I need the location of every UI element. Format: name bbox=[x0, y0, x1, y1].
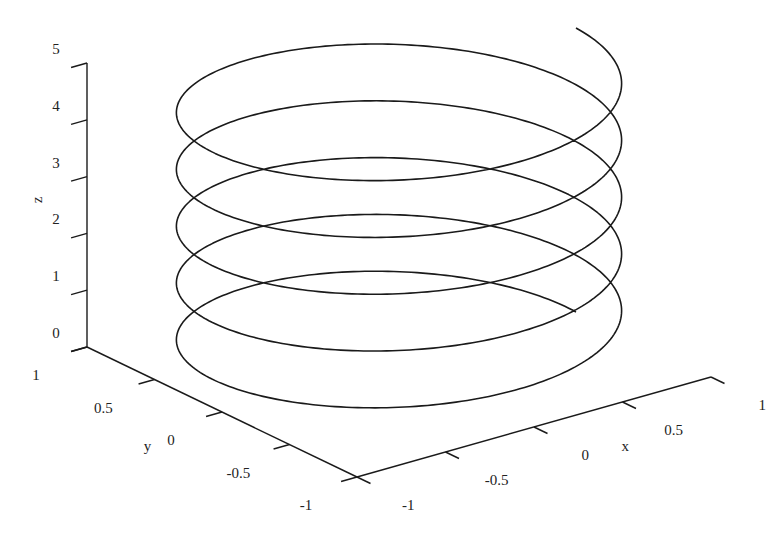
y-tick-label: 0 bbox=[167, 432, 175, 448]
axis-ticks bbox=[71, 63, 724, 484]
y-tick bbox=[139, 380, 155, 385]
x-tick-label: 0 bbox=[581, 447, 589, 463]
helix-3d-plot: -1-0.500.51-1-0.500.51012345 x y z bbox=[0, 0, 779, 533]
z-tick-label: 5 bbox=[52, 41, 60, 57]
y-tick bbox=[206, 412, 222, 417]
y-tick bbox=[274, 445, 290, 450]
y-tick-label: 1 bbox=[32, 367, 40, 383]
x-tick-label: -1 bbox=[402, 497, 415, 513]
helix-curve bbox=[176, 28, 621, 408]
x-tick-label: 0.5 bbox=[664, 422, 683, 438]
z-axis-label: z bbox=[29, 196, 45, 203]
y-tick-label: -1 bbox=[300, 497, 313, 513]
z-tick bbox=[71, 233, 87, 238]
z-tick-label: 3 bbox=[52, 155, 60, 171]
y-axis-label: y bbox=[144, 438, 152, 454]
x-axis-label: x bbox=[622, 438, 630, 454]
x-tick bbox=[711, 377, 725, 384]
y-tick-label: -0.5 bbox=[227, 465, 251, 481]
x-tick bbox=[446, 452, 460, 459]
x-tick bbox=[357, 477, 371, 484]
z-tick bbox=[71, 63, 87, 68]
x-tick-label: 1 bbox=[758, 397, 766, 413]
z-tick bbox=[71, 290, 87, 295]
y-tick bbox=[341, 477, 357, 482]
z-tick-label: 4 bbox=[52, 98, 60, 114]
z-tick bbox=[71, 347, 87, 352]
z-tick-label: 2 bbox=[52, 211, 60, 227]
z-tick bbox=[71, 177, 87, 182]
x-tick bbox=[534, 427, 548, 434]
z-tick-label: 1 bbox=[52, 268, 60, 284]
z-tick-label: 0 bbox=[52, 325, 60, 341]
x-tick bbox=[623, 402, 637, 409]
tick-labels: -1-0.500.51-1-0.500.51012345 bbox=[32, 41, 766, 513]
z-tick bbox=[71, 120, 87, 125]
x-tick-label: -0.5 bbox=[485, 472, 509, 488]
y-tick-label: 0.5 bbox=[94, 400, 113, 416]
